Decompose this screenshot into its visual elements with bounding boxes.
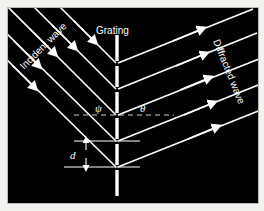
diagram-panel: Incident wave Grating Diffracted wave ψ … xyxy=(7,7,259,204)
incident-ray xyxy=(8,27,116,141)
angle-theta-label: θ xyxy=(140,102,146,114)
spacing-arrow-up xyxy=(83,136,90,150)
spacing-arrow-down xyxy=(83,158,90,172)
grating-label: Grating xyxy=(96,25,129,36)
diffracted-ray xyxy=(118,9,253,63)
diffraction-grating-diagram: Incident wave Grating Diffracted wave ψ … xyxy=(8,8,258,203)
diffracted-wave-label: Diffracted wave xyxy=(211,38,247,106)
figure-root: Incident wave Grating Diffracted wave ψ … xyxy=(0,0,264,211)
incident-wave-label: Incident wave xyxy=(18,20,69,71)
spacing-d-label: d xyxy=(70,149,76,161)
diffracted-ray xyxy=(118,110,258,167)
angle-psi-label: ψ xyxy=(95,102,102,114)
